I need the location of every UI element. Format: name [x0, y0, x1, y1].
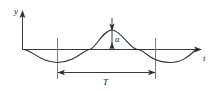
y-axis-label: y: [13, 6, 18, 16]
period-label: T: [103, 77, 109, 87]
t-axis-label: t: [203, 53, 206, 63]
amplitude-label: a: [115, 34, 120, 44]
wave-diagram-figure: y t a T: [0, 0, 219, 91]
wave-diagram-canvas: y t a T: [0, 0, 219, 91]
sine-wave-curve: [23, 30, 196, 63]
